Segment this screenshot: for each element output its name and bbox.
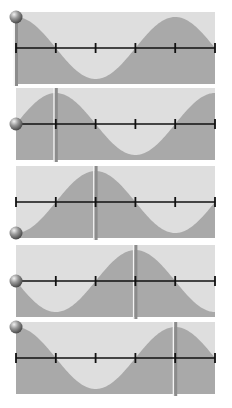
oscillator-ball-icon: [10, 275, 23, 288]
marker-highlight: [133, 245, 135, 319]
marker-highlight: [93, 166, 95, 240]
wave-panel-3: [0, 158, 232, 242]
wave-panel-svg: [0, 80, 232, 164]
wave-panel-svg: [0, 314, 232, 398]
wave-panel-2: [0, 80, 232, 164]
wave-panel-1: [0, 4, 232, 88]
marker-highlight: [53, 88, 55, 162]
oscillator-ball-icon: [10, 11, 23, 24]
wave-panel-5: [0, 314, 232, 398]
oscillator-ball-icon: [10, 118, 23, 131]
oscillator-ball-icon: [10, 321, 23, 334]
marker-highlight: [173, 322, 175, 396]
wave-panel-svg: [0, 237, 232, 321]
wave-panel-svg: [0, 4, 232, 88]
wave-panel-4: [0, 237, 232, 321]
wave-panel-svg: [0, 158, 232, 242]
